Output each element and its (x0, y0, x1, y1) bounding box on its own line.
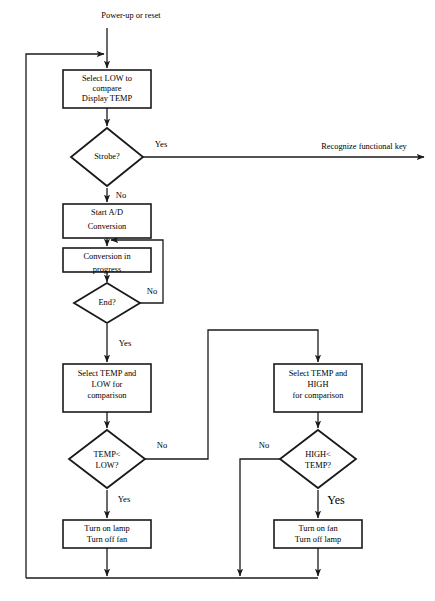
node-select-low: Select LOW to compare Display TEMP (63, 70, 151, 108)
node-select-temp-low-line-1: Select TEMP and (78, 369, 137, 378)
node-select-low-line-2: compare (93, 84, 122, 93)
node-select-low-line-1: Select LOW to (82, 74, 132, 83)
conn-return-loop-to-spine (26, 54, 104, 578)
edge-label-end-no: No (147, 286, 158, 296)
node-strobe-decision: Strobe? (71, 128, 143, 186)
node-end-label: End? (98, 298, 115, 307)
node-temp-lt-low-decision: TEMP< LOW? (69, 430, 145, 488)
node-high-lt-temp-line-1: HIGH< (305, 450, 331, 459)
node-start-ad: Start A/D Conversion (63, 204, 151, 238)
entry-label: Power-up or reset (101, 11, 161, 20)
edge-label-temp-lt-low-no: No (157, 440, 168, 450)
node-select-temp-high-line-2: HIGH (308, 380, 329, 389)
node-conversion-progress-line-2: progress (93, 265, 121, 274)
node-lamp-on: Turn on lamp Turn off fan (63, 520, 151, 548)
node-select-temp-high-line-1: Select TEMP and (289, 369, 348, 378)
node-high-lt-temp-decision: HIGH< TEMP? (280, 430, 356, 488)
node-select-temp-low: Select TEMP and LOW for comparison (63, 364, 151, 412)
edge-label-strobe-yes: Yes (155, 139, 168, 149)
edge-label-strobe-no: No (116, 190, 127, 200)
node-start-ad-line-1: Start A/D (91, 208, 123, 217)
node-select-temp-low-line-2: LOW for (92, 380, 123, 389)
conn-high-lt-temp-no-to-bottom-bus (240, 459, 281, 576)
node-fan-on: Turn on fan Turn off lamp (274, 520, 362, 548)
node-fan-on-line-1: Turn on fan (298, 524, 338, 533)
node-strobe-label: Strobe? (94, 152, 120, 161)
node-select-low-line-3: Display TEMP (82, 94, 133, 103)
node-select-temp-low-line-3: comparison (87, 391, 127, 400)
node-fan-on-line-2: Turn off lamp (295, 535, 342, 544)
node-lamp-on-line-2: Turn off fan (87, 535, 128, 544)
edge-label-high-lt-temp-no: No (259, 440, 270, 450)
node-conversion-progress: Conversion in progress (63, 248, 151, 274)
flowchart-svg: Select LOW to compare Display TEMP Strob… (0, 0, 435, 601)
flowchart-canvas: Select LOW to compare Display TEMP Strob… (0, 0, 435, 601)
node-lamp-on-line-1: Turn on lamp (84, 524, 129, 533)
node-start-ad-line-2: Conversion (88, 222, 127, 231)
edge-label-high-lt-temp-yes: Yes (327, 493, 345, 507)
edge-label-end-yes: Yes (119, 338, 132, 348)
node-temp-lt-low-line-2: LOW? (96, 461, 119, 470)
node-temp-lt-low-line-1: TEMP< (93, 450, 120, 459)
edge-label-temp-lt-low-yes: Yes (118, 494, 131, 504)
node-high-lt-temp-line-2: TEMP? (305, 461, 331, 470)
node-select-temp-high-line-3: for comparison (293, 391, 345, 400)
recognize-key-label: Recognize functional key (321, 142, 407, 151)
node-end-decision: End? (74, 283, 140, 323)
node-conversion-progress-line-1: Conversion in (83, 252, 131, 261)
node-select-temp-high: Select TEMP and HIGH for comparison (274, 364, 362, 412)
